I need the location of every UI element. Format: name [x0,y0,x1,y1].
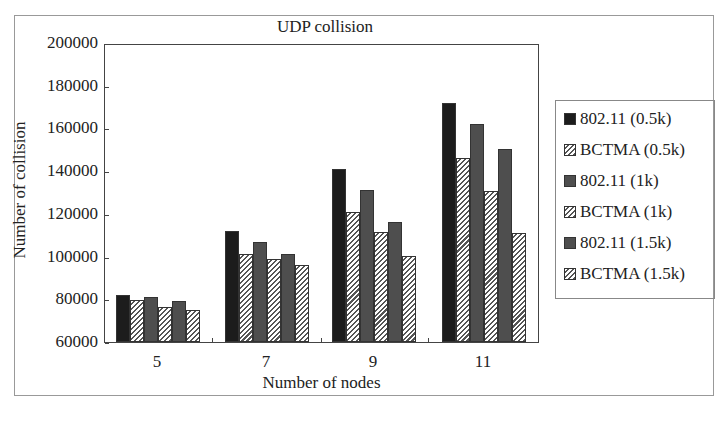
y-tick-label: 120000 [8,204,98,224]
bar-bctma-1k-n7 [267,259,281,342]
bar-802-11-0-5k-n9 [332,169,346,342]
bar-802-11-0-5k-n7 [225,231,239,342]
legend-swatch-icon [564,175,576,187]
x-tick-mark [212,338,213,342]
legend-label: BCTMA (0.5k) [580,140,685,159]
x-tick-mark [428,338,429,342]
bar-802-11-0-5k-n5 [116,295,130,342]
bar-bctma-0-5k-n5 [130,300,144,342]
y-tick-label: 80000 [8,289,98,309]
bar-802-11-1k-n11 [470,124,484,342]
y-tick-label: 60000 [8,332,98,352]
legend-item: BCTMA (1.5k) [564,264,685,284]
bar-bctma-1-5k-n7 [295,265,309,342]
bar-802-11-1-5k-n9 [388,222,402,342]
chart-legend: 802.11 (0.5k)BCTMA (0.5k)802.11 (1k)BCTM… [555,100,715,299]
x-tick-label: 9 [353,352,393,372]
x-tick-mark [538,338,539,342]
legend-swatch-icon [564,206,576,218]
bar-bctma-0-5k-n9 [346,212,360,342]
y-tick-mark [105,300,109,301]
bar-bctma-0-5k-n11 [456,158,470,342]
bar-802-11-1k-n5 [144,297,158,342]
legend-swatch-icon [564,113,576,125]
legend-item: 802.11 (1k) [564,171,659,191]
y-tick-label: 200000 [8,33,98,53]
legend-swatch-icon [564,237,576,249]
y-tick-mark [105,129,109,130]
bar-802-11-1-5k-n11 [498,149,512,342]
bar-802-11-1k-n7 [253,242,267,342]
legend-swatch-icon [564,268,576,280]
bar-bctma-1k-n11 [484,191,498,342]
legend-label: 802.11 (1k) [580,171,659,190]
y-tick-mark [105,258,109,259]
bar-bctma-1-5k-n5 [186,310,200,342]
bar-bctma-1-5k-n11 [512,233,526,342]
x-axis-label: Number of nodes [104,373,539,393]
y-tick-label: 140000 [8,161,98,181]
bar-802-11-1-5k-n5 [172,301,186,342]
y-tick-label: 100000 [8,247,98,267]
x-tick-label: 11 [463,352,503,372]
legend-item: 802.11 (0.5k) [564,109,671,129]
bar-bctma-1k-n5 [158,307,172,342]
legend-item: BCTMA (0.5k) [564,140,685,160]
legend-label: 802.11 (0.5k) [580,109,671,128]
bar-bctma-0-5k-n7 [239,254,253,342]
bar-bctma-1-5k-n9 [402,256,416,342]
y-tick-label: 180000 [8,76,98,96]
y-tick-mark [105,172,109,173]
bar-802-11-0-5k-n11 [442,103,456,342]
bar-802-11-1-5k-n7 [281,254,295,342]
x-tick-label: 5 [137,352,177,372]
x-tick-mark [321,338,322,342]
bar-802-11-1k-n9 [360,190,374,342]
legend-label: BCTMA (1.5k) [580,264,685,283]
y-tick-label: 160000 [8,118,98,138]
y-tick-mark [105,343,109,344]
legend-label: BCTMA (1k) [580,202,672,221]
y-tick-mark [105,44,109,45]
x-tick-label: 7 [246,352,286,372]
plot-area [104,44,539,343]
y-tick-mark [105,215,109,216]
bar-bctma-1k-n9 [374,232,388,342]
legend-item: 802.11 (1.5k) [564,233,671,253]
legend-swatch-icon [564,144,576,156]
legend-label: 802.11 (1.5k) [580,233,671,252]
legend-item: BCTMA (1k) [564,202,672,222]
y-tick-mark [105,87,109,88]
